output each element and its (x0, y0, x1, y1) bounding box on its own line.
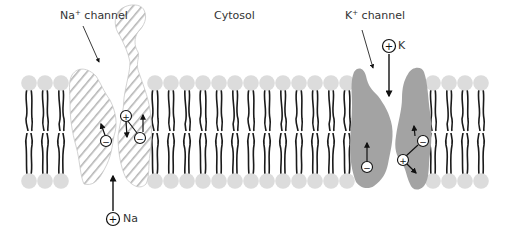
lipid-head (307, 75, 323, 91)
lipid-head (473, 75, 489, 91)
lipid-head (53, 173, 69, 189)
lipid-head (37, 173, 53, 189)
lipid-head (21, 173, 37, 189)
svg-text:−: − (419, 137, 427, 147)
lipid-head (441, 173, 457, 189)
lipid-head (473, 173, 489, 189)
lipid-head (307, 173, 323, 189)
svg-text:+: + (385, 41, 393, 52)
na-channel-pointer (83, 26, 99, 62)
membrane-diagram: + + − + − − − + (0, 0, 510, 233)
lipid-head (259, 75, 275, 91)
lipid-head (195, 173, 211, 189)
lipid-head (53, 75, 69, 91)
svg-text:+: + (122, 112, 130, 122)
lipid-head (339, 173, 355, 189)
svg-text:−: − (363, 163, 371, 173)
na-channel-left-subunit (70, 69, 117, 184)
lipid-head (291, 173, 307, 189)
k-channel (350, 68, 432, 190)
lipid-head (275, 173, 291, 189)
svg-text:+: + (109, 214, 117, 225)
lipid-head (195, 75, 211, 91)
lipid-head (211, 75, 227, 91)
lipid-head (37, 75, 53, 91)
lipid-head (259, 173, 275, 189)
lipid-head (147, 75, 163, 91)
sodium-ion-flow: + (107, 176, 120, 226)
lipid-head (323, 75, 339, 91)
lipid-head (163, 173, 179, 189)
lipid-head (227, 75, 243, 91)
svg-text:−: − (136, 134, 144, 144)
potassium-ion-flow: + (383, 40, 396, 97)
svg-text:+: + (399, 156, 407, 166)
lipid-head (425, 75, 441, 91)
k-channel-pointer (362, 30, 373, 68)
lipid-head (457, 173, 473, 189)
potassium-ion-label: K (398, 40, 405, 51)
lipid-head (457, 75, 473, 91)
sodium-ion-label: Na (123, 213, 138, 224)
lipid-head (179, 173, 195, 189)
svg-text:−: − (102, 137, 110, 147)
k-channel-label: K+ channel (345, 10, 405, 21)
na-channel-right-subunit (115, 5, 151, 187)
k-channel-right-subunit (395, 68, 431, 190)
lipid-head (211, 173, 227, 189)
lipid-head (275, 75, 291, 91)
lipid-head (227, 173, 243, 189)
na-channel-label: Na+ channel (60, 10, 128, 21)
lipid-head (147, 173, 163, 189)
lipid-head (21, 75, 37, 91)
lipid-head (179, 75, 195, 91)
lipid-head (441, 75, 457, 91)
lipid-head (243, 75, 259, 91)
lipid-head (291, 75, 307, 91)
lipid-head (243, 173, 259, 189)
lipid-head (323, 173, 339, 189)
na-channel (70, 5, 152, 187)
lipid-head (163, 75, 179, 91)
cytosol-label: Cytosol (214, 10, 255, 21)
